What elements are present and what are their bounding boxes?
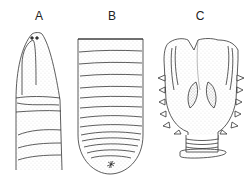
worm-morphology-figure: A B C (0, 0, 252, 189)
panel-b-drawing (78, 39, 143, 174)
panel-c-drawing (158, 39, 244, 159)
panel-a-drawing (16, 33, 62, 171)
figure-drawing (0, 0, 252, 189)
